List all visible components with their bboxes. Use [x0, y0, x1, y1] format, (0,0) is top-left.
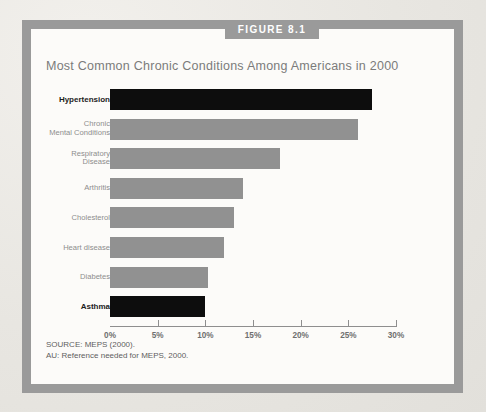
bar-category-label: Arthritis [0, 184, 110, 193]
bar [110, 89, 372, 110]
source-line-2: AU: Reference needed for MEPS, 2000. [46, 350, 188, 361]
bar [110, 296, 205, 317]
x-axis-tick [205, 320, 206, 327]
x-axis-tick [301, 320, 302, 327]
bar-chart-plot-area: HypertensionChronic Mental ConditionsRes… [31, 87, 454, 327]
bar-row: Asthma [31, 296, 454, 317]
bar-category-label: Hypertension [0, 95, 110, 104]
x-axis-tick-label: 20% [292, 331, 308, 340]
x-axis-tick-label: 30% [388, 331, 404, 340]
bar-row: Arthritis [31, 178, 454, 199]
x-axis-tick-label: 10% [197, 331, 213, 340]
x-axis-tick [348, 320, 349, 327]
bar-row: Respiratory Disease [31, 148, 454, 169]
x-axis-tick-label: 15% [245, 331, 261, 340]
bar-category-label: Chronic Mental Conditions [0, 121, 110, 138]
bar [110, 267, 208, 288]
bar [110, 148, 280, 169]
figure-panel: FIGURE 8.1 Most Common Chronic Condition… [31, 29, 454, 384]
bar-category-label: Diabetes [0, 273, 110, 282]
figure-number-band: FIGURE 8.1 [225, 20, 319, 39]
figure-number-label: FIGURE 8.1 [238, 24, 306, 35]
bar-category-label: Respiratory Disease [0, 150, 110, 167]
bar-category-label: Asthma [0, 302, 110, 311]
bar [110, 119, 358, 140]
x-axis-tick-label: 25% [340, 331, 356, 340]
bar [110, 178, 243, 199]
bar-row: Chronic Mental Conditions [31, 119, 454, 140]
x-axis-tick [158, 320, 159, 327]
bar-category-label: Heart disease [0, 243, 110, 252]
bar [110, 237, 224, 258]
bar [110, 207, 234, 228]
bar-row: Diabetes [31, 267, 454, 288]
x-axis-tick [253, 320, 254, 327]
x-axis-tick [396, 320, 397, 327]
source-line-1: SOURCE: MEPS (2000). [46, 339, 188, 350]
bar-row: Heart disease [31, 237, 454, 258]
bar-row: Hypertension [31, 89, 454, 110]
figure-frame: FIGURE 8.1 Most Common Chronic Condition… [22, 20, 463, 393]
chart-title: Most Common Chronic Conditions Among Ame… [46, 59, 446, 73]
scanned-page-background: FIGURE 8.1 Most Common Chronic Condition… [0, 0, 486, 412]
bar-category-label: Cholesterol [0, 214, 110, 223]
bar-row: Cholesterol [31, 207, 454, 228]
source-note-block: SOURCE: MEPS (2000). AU: Reference neede… [46, 339, 188, 361]
